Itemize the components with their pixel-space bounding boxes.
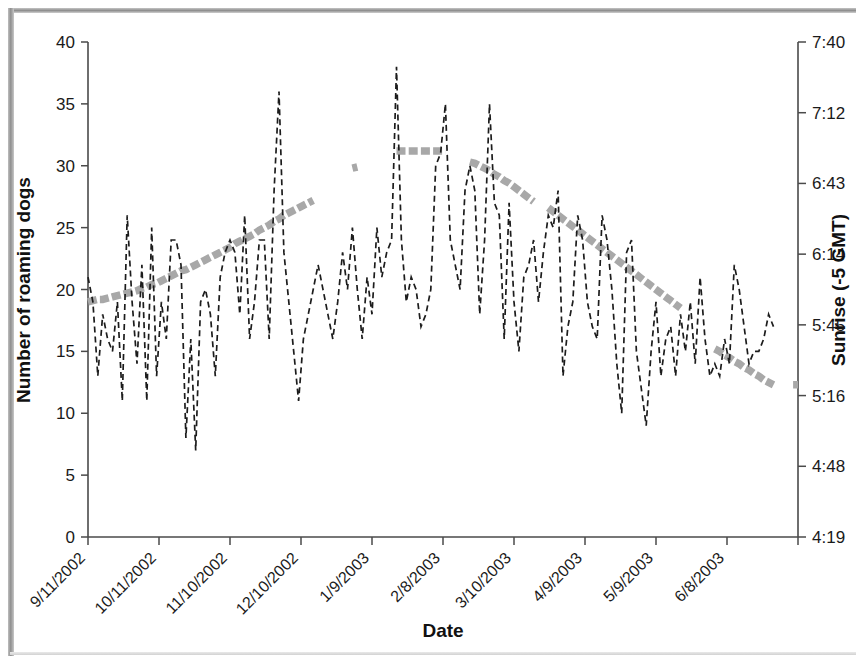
x-axis-tick-label: 5/9/2003 [600, 549, 656, 605]
x-axis-tick-label: 1/9/2003 [316, 549, 372, 605]
x-axis-tick-label: 11/10/2002 [162, 549, 230, 617]
y-axis-right-tick-label: 4:19 [812, 528, 845, 547]
x-axis-labels: 9/11/200210/11/200211/10/200212/10/20021… [27, 549, 728, 618]
x-axis-tick-label: 12/10/2002 [232, 549, 301, 618]
y-axis-left-tick-label: 15 [56, 342, 75, 361]
series-sunrise-line [88, 151, 798, 385]
x-axis-tick-label: 2/8/2003 [387, 549, 443, 605]
y-axis-right-tick-label: 4:48 [812, 457, 845, 476]
x-axis-tick-label: 3/10/2003 [452, 549, 514, 611]
x-axis-tick-label: 9/11/2002 [27, 549, 89, 611]
series-dogs-line [88, 67, 774, 451]
y-axis-right-tick-label: 7:12 [812, 104, 845, 123]
y-axis-left-ticks [81, 42, 88, 537]
y-axis-left-tick-label: 10 [56, 404, 75, 423]
x-axis-ticks [88, 537, 798, 545]
y-axis-left-tick-label: 0 [66, 528, 75, 547]
y-axis-left-tick-label: 5 [66, 466, 75, 485]
y-axis-left-title: Number of roaming dogs [13, 177, 34, 403]
y-axis-left-tick-label: 40 [56, 33, 75, 52]
x-axis: 9/11/200210/11/200211/10/200212/10/20021… [27, 537, 798, 618]
plot-area [88, 67, 798, 451]
x-axis-tick-label: 6/8/2003 [671, 549, 727, 605]
y-axis-left: 0510152025303540 [56, 33, 88, 547]
x-axis-tick-label: 10/11/2002 [91, 549, 159, 617]
chart-svg: 0510152025303540 4:194:485:165:456:146:4… [0, 0, 864, 669]
y-axis-right-title: Sunrise (-5 GMT) [828, 214, 849, 366]
y-axis-right-ticks [798, 42, 806, 537]
y-axis-right-tick-label: 5:16 [812, 387, 845, 406]
y-axis-left-tick-label: 35 [56, 95, 75, 114]
y-axis-left-tick-label: 20 [56, 281, 75, 300]
y-axis-left-tick-label: 30 [56, 157, 75, 176]
y-axis-left-tick-label: 25 [56, 219, 75, 238]
y-axis-left-labels: 0510152025303540 [56, 33, 75, 547]
x-axis-tick-label: 4/9/2003 [529, 549, 585, 605]
x-axis-title: Date [422, 620, 463, 641]
y-axis-right-tick-label: 7:40 [812, 33, 845, 52]
y-axis-right-tick-label: 6:43 [812, 174, 845, 193]
figure-container: 0510152025303540 4:194:485:165:456:146:4… [0, 0, 864, 669]
